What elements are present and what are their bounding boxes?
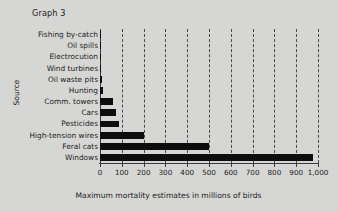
x-tick-label: 800 bbox=[268, 168, 282, 177]
x-tick-label: 400 bbox=[180, 168, 194, 177]
y-tick-label: Oil spills bbox=[0, 40, 98, 51]
x-tick-800 bbox=[274, 163, 275, 167]
x-tick-label: 600 bbox=[224, 168, 238, 177]
x-tick-400 bbox=[187, 163, 188, 167]
y-tick-label: Fishing by-catch bbox=[0, 29, 98, 40]
bar-chart: Graph 3 Source Maximum mortality estimat… bbox=[0, 0, 337, 212]
x-tick-700 bbox=[253, 163, 254, 167]
bar-row bbox=[100, 63, 318, 74]
x-tick-label: 200 bbox=[137, 168, 151, 177]
gridline-1000 bbox=[318, 29, 319, 163]
bar-row bbox=[100, 74, 318, 85]
bar-oil-spills bbox=[100, 42, 101, 49]
bar-row bbox=[100, 130, 318, 141]
x-tick-300 bbox=[165, 163, 166, 167]
bar-pesticides bbox=[100, 121, 119, 128]
bar-comm-towers bbox=[100, 98, 113, 105]
bar-row bbox=[100, 40, 318, 51]
x-tick-label: 0 bbox=[98, 168, 103, 177]
bar-row bbox=[100, 141, 318, 152]
bar-windows bbox=[100, 154, 313, 161]
x-tick-900 bbox=[296, 163, 297, 167]
y-tick-label: Hunting bbox=[0, 85, 98, 96]
y-tick-label: Pesticides bbox=[0, 118, 98, 129]
x-tick-600 bbox=[231, 163, 232, 167]
bar-fishing-by-catch bbox=[100, 31, 101, 38]
y-tick-label: Wind turbines bbox=[0, 63, 98, 74]
plot-area bbox=[100, 29, 318, 163]
x-tick-label: 1,000 bbox=[308, 168, 329, 177]
x-tick-label: 500 bbox=[202, 168, 216, 177]
x-tick-label: 300 bbox=[159, 168, 173, 177]
x-tick-label: 700 bbox=[246, 168, 260, 177]
bar-high-tension-wires bbox=[100, 132, 144, 139]
x-axis-title: Maximum mortality estimates in millions … bbox=[0, 191, 337, 200]
bar-electrocution bbox=[100, 54, 101, 61]
bar-row bbox=[100, 118, 318, 129]
bar-hunting bbox=[100, 87, 103, 94]
x-tick-1000 bbox=[318, 163, 319, 167]
bar-row bbox=[100, 107, 318, 118]
bar-row bbox=[100, 85, 318, 96]
y-tick-label: Comm. towers bbox=[0, 96, 98, 107]
x-tick-0 bbox=[100, 163, 101, 167]
bar-row bbox=[100, 29, 318, 40]
y-tick-label: Oil waste pits bbox=[0, 74, 98, 85]
x-tick-label: 900 bbox=[289, 168, 303, 177]
x-tick-200 bbox=[144, 163, 145, 167]
bar-cars bbox=[100, 109, 116, 116]
bar-row bbox=[100, 96, 318, 107]
y-tick-label: Windows bbox=[0, 152, 98, 163]
x-tick-label: 100 bbox=[115, 168, 129, 177]
y-tick-label: Cars bbox=[0, 107, 98, 118]
y-tick-label: Feral cats bbox=[0, 141, 98, 152]
x-tick-100 bbox=[122, 163, 123, 167]
bar-row bbox=[100, 51, 318, 62]
page-title: Graph 3 bbox=[32, 8, 66, 18]
y-tick-label: Electrocution bbox=[0, 51, 98, 62]
y-tick-label: High-tension wires bbox=[0, 130, 98, 141]
bar-row bbox=[100, 152, 318, 163]
bar-oil-waste-pits bbox=[100, 76, 102, 83]
x-tick-500 bbox=[209, 163, 210, 167]
bar-feral-cats bbox=[100, 143, 209, 150]
bar-wind-turbines bbox=[100, 65, 101, 72]
